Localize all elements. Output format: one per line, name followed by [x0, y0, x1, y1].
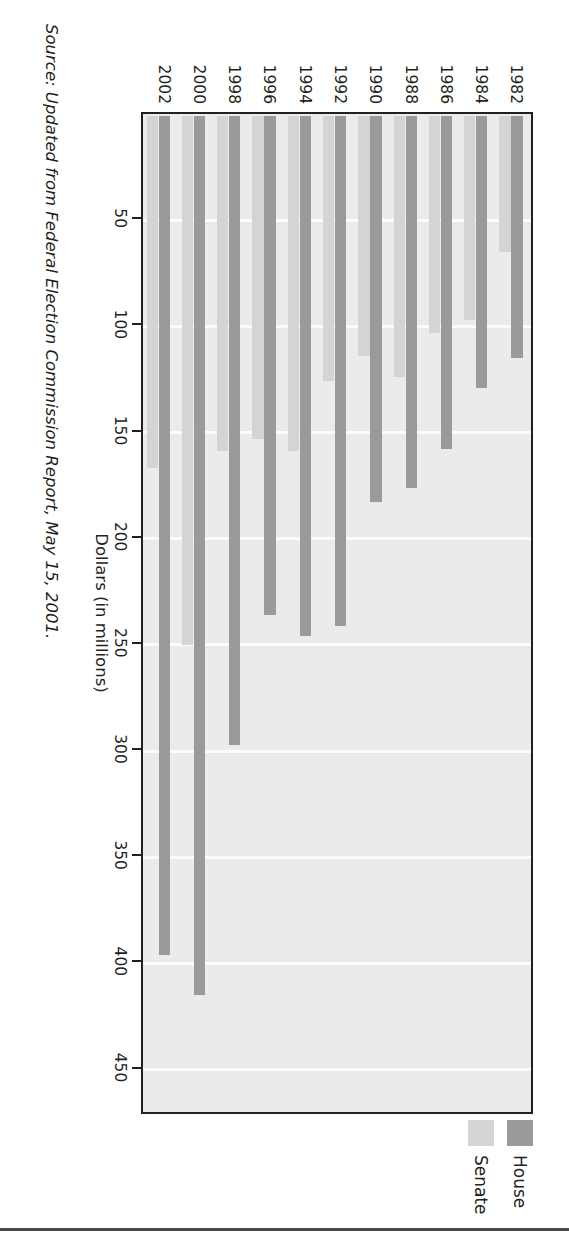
- bar-senate: [182, 116, 193, 645]
- legend-label-senate: Senate: [471, 1155, 491, 1215]
- axis-tick-label: 450: [111, 1053, 129, 1083]
- bar-house: [511, 116, 522, 358]
- bar-senate: [429, 116, 440, 333]
- bar-house: [194, 116, 205, 995]
- bar-senate: [394, 116, 405, 377]
- axis-tick-label: 50: [111, 208, 129, 228]
- value-axis-title: Dollars (in millions): [92, 112, 111, 1114]
- year-label: 2002: [155, 46, 173, 104]
- source-note: Source: Updated from Federal Election Co…: [42, 24, 61, 639]
- year-label: 1988: [402, 46, 420, 104]
- axis-tick: [132, 960, 141, 962]
- bar-group: [247, 116, 282, 1110]
- bar-senate: [288, 116, 299, 451]
- bar-house: [370, 116, 381, 502]
- axis-tick-label: 150: [111, 416, 129, 446]
- axis-tick: [132, 748, 141, 750]
- year-label: 2000: [190, 46, 208, 104]
- year-label: 1994: [296, 46, 314, 104]
- axis-tick: [132, 536, 141, 538]
- bar-house: [476, 116, 487, 388]
- axis-tick-label: 350: [111, 840, 129, 870]
- bar-house: [159, 116, 170, 955]
- bar-house: [300, 116, 311, 636]
- bar-series-container: [145, 116, 529, 1110]
- legend-item-senate: Senate: [468, 1120, 494, 1230]
- bar-senate: [464, 116, 475, 320]
- bar-group: [494, 116, 529, 1110]
- axis-tick-label: 300: [111, 734, 129, 764]
- bar-senate: [252, 116, 263, 439]
- year-label: 1990: [366, 46, 384, 104]
- axis-tick: [132, 430, 141, 432]
- bar-senate: [147, 116, 158, 468]
- bar-group: [353, 116, 388, 1110]
- bar-senate: [217, 116, 228, 451]
- bar-house: [229, 116, 240, 745]
- bar-house: [335, 116, 346, 626]
- year-label: 1992: [331, 46, 349, 104]
- year-label: 1998: [225, 46, 243, 104]
- bar-house: [406, 116, 417, 488]
- house-swatch-icon: [507, 1120, 533, 1146]
- axis-tick-label: 200: [111, 522, 129, 552]
- bar-senate: [323, 116, 334, 381]
- bar-group: [458, 116, 493, 1110]
- year-label: 1982: [507, 46, 525, 104]
- year-label: 1996: [260, 46, 278, 104]
- bar-group: [423, 116, 458, 1110]
- bar-senate: [499, 116, 510, 252]
- legend-item-house: House: [507, 1120, 533, 1230]
- plot-area: [141, 112, 533, 1114]
- legend: House Senate: [455, 1120, 533, 1230]
- axis-tick-label: 400: [111, 947, 129, 977]
- year-label: 1984: [472, 46, 490, 104]
- bar-group: [282, 116, 317, 1110]
- axis-tick: [132, 323, 141, 325]
- legend-label-house: House: [510, 1155, 530, 1208]
- chart-page: 45040035030025020015010050 Dollars (in m…: [0, 0, 569, 1238]
- bar-group: [176, 116, 211, 1110]
- bar-group: [388, 116, 423, 1110]
- axis-tick: [132, 217, 141, 219]
- year-label: 1986: [437, 46, 455, 104]
- bar-group: [141, 116, 176, 1110]
- bar-group: [212, 116, 247, 1110]
- bar-house: [264, 116, 275, 615]
- axis-tick: [132, 642, 141, 644]
- axis-tick-label: 250: [111, 628, 129, 658]
- senate-swatch-icon: [468, 1120, 494, 1146]
- bar-senate: [358, 116, 369, 356]
- bar-house: [441, 116, 452, 449]
- bar-group: [317, 116, 352, 1110]
- value-axis: 45040035030025020015010050: [139, 112, 141, 1114]
- axis-tick: [132, 1067, 141, 1069]
- axis-tick-label: 100: [111, 310, 129, 340]
- axis-tick: [132, 854, 141, 856]
- plot-area-wrapper: [141, 112, 533, 1114]
